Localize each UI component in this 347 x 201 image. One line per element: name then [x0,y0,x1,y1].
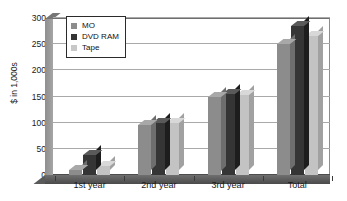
bar-side-face [249,85,254,170]
bar [138,125,151,175]
bar-front-face [69,170,82,175]
bar-side-face [235,84,240,170]
y-tick-label: 50 [16,145,46,154]
bar [277,44,290,175]
bar-front-face [97,166,110,175]
legend-item: Tape [71,43,119,53]
plot-left-wall [45,18,53,176]
legend-label: DVD RAM [82,33,119,41]
bar-side-face [290,34,295,170]
bar-side-face [318,26,323,170]
legend: MODVD RAMTape [66,16,126,58]
x-tick-label: 1st year [55,180,125,190]
bar-group [277,18,318,175]
legend-swatch-icon [71,34,77,40]
legend-label: Tape [82,44,99,52]
x-axis-labels: 1st year2nd year3rd yearTotal [45,180,335,196]
x-tick-label: 3rd year [193,180,263,190]
y-tick-label: 150 [16,92,46,101]
y-tick-label: 250 [16,40,46,49]
legend-label: MO [82,22,95,30]
bar [208,97,221,176]
bar-group [138,18,179,175]
bar-front-face [208,97,221,176]
legend-item: MO [71,21,119,31]
x-tick-label: Total [262,180,332,190]
y-axis-ticks: 050100150200250300 [16,0,46,201]
y-tick-label: 100 [16,118,46,127]
bar-front-face [277,44,290,175]
y-tick-label: 200 [16,66,46,75]
x-tick-label: 2nd year [124,180,194,190]
bar [69,170,82,175]
bar [97,166,110,175]
bar-side-face [304,16,309,170]
legend-item: DVD RAM [71,32,119,42]
bar-chart: $ in 1,000s 050100150200250300 1st year2… [0,0,347,201]
bar-group [208,18,249,175]
legend-swatch-icon [71,23,77,29]
legend-swatch-icon [71,45,77,51]
bar-side-face [221,87,226,171]
y-tick-label: 300 [16,14,46,23]
bar-front-face [138,125,151,175]
